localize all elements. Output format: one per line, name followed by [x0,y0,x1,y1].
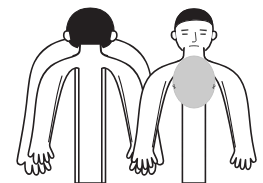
anatomical-figure-canvas [0,0,263,183]
chest-shaded-oval[interactable] [173,56,215,108]
anterior-right-eye [200,33,206,35]
shaded-region-icon[interactable] [173,56,215,108]
body-outline-icon [0,0,263,183]
anterior-left-eye [182,33,188,35]
posterior-hair [67,8,114,49]
